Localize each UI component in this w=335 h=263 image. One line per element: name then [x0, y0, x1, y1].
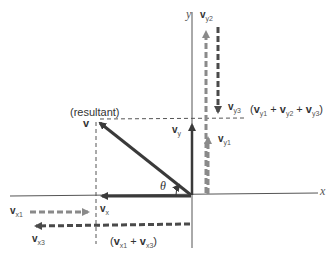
vy2-label: vy2 [200, 10, 213, 22]
vx3-label: vx3 [32, 234, 45, 246]
vy-label: vy [172, 125, 181, 137]
vx3-vector [36, 224, 190, 226]
vy3-label: vy3 [228, 102, 241, 114]
sum-x-label: (vx1 + vx3) [110, 236, 157, 249]
guide-horizontal [100, 118, 244, 119]
theta-arc [176, 185, 179, 195]
y-axis-label: y [186, 8, 191, 20]
sum-y-label: (vy1 + vy2 + vy3) [250, 104, 323, 117]
v-label: v [83, 118, 89, 129]
resultant-label: (resultant) [70, 107, 120, 118]
vector-diagram [0, 0, 335, 263]
theta-label: θ [160, 180, 166, 192]
vy1-label: vy1 [218, 134, 231, 146]
x-axis-label: x [320, 185, 325, 197]
vx1-label: vx1 [10, 206, 23, 218]
vx-label: vx [100, 204, 109, 216]
